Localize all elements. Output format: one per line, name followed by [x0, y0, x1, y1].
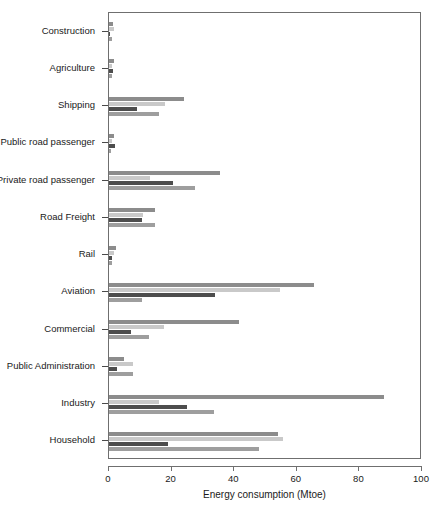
y-axis-label: Household	[50, 435, 95, 445]
bar-fill	[109, 223, 155, 227]
bar	[109, 139, 112, 143]
bar-fill	[109, 37, 112, 41]
bar-fill	[109, 447, 259, 451]
y-axis-label: Private road passenger	[0, 175, 95, 185]
bar-fill	[109, 293, 215, 297]
bar-fill	[109, 330, 131, 334]
bar	[109, 181, 173, 185]
x-axis-tick-label: 100	[413, 473, 429, 484]
bar	[109, 320, 239, 324]
bar	[109, 112, 159, 116]
bar-fill	[109, 320, 239, 324]
bar	[109, 405, 187, 409]
bar	[109, 144, 115, 148]
bar	[109, 330, 131, 334]
y-axis-label: Shipping	[58, 100, 95, 110]
y-axis-label: Road Freight	[40, 212, 95, 222]
bar	[109, 171, 220, 175]
bar	[109, 437, 283, 441]
x-axis-tick-label: 40	[228, 473, 239, 484]
bar-fill	[109, 261, 112, 265]
bar	[109, 218, 142, 222]
bar-fill	[109, 256, 112, 260]
bar	[109, 362, 133, 366]
y-axis-label: Aviation	[61, 286, 95, 296]
bar-fill	[109, 149, 111, 153]
x-axis-tick-label: 0	[105, 473, 110, 484]
bar-fill	[109, 69, 113, 73]
bar-fill	[109, 112, 159, 116]
bar	[109, 27, 114, 31]
bar	[109, 335, 149, 339]
y-axis-label: Industry	[61, 398, 95, 408]
bar-fill	[109, 102, 165, 106]
bar-fill	[109, 74, 112, 78]
bar-fill	[109, 22, 113, 26]
bar	[109, 298, 142, 302]
bar-fill	[109, 288, 280, 292]
y-axis-label: Public road passenger	[0, 137, 95, 147]
y-axis-label: Construction	[42, 26, 95, 36]
bar-fill	[109, 134, 114, 138]
x-axis-tick	[108, 466, 109, 471]
x-axis-tick	[233, 466, 234, 471]
bar	[109, 293, 215, 297]
bar	[109, 213, 143, 217]
x-axis-tick	[358, 466, 359, 471]
bar-fill	[109, 107, 137, 111]
bar	[109, 186, 195, 190]
bar	[109, 400, 159, 404]
bar	[109, 288, 280, 292]
bars-container	[109, 13, 420, 458]
bar-fill	[109, 405, 187, 409]
bar	[109, 134, 114, 138]
bar	[109, 251, 114, 255]
bar-fill	[109, 395, 384, 399]
bar	[109, 223, 155, 227]
bar-fill	[109, 298, 142, 302]
bar	[109, 325, 164, 329]
bar-fill	[109, 325, 164, 329]
bar	[109, 246, 116, 250]
x-axis-title: Energy consumption (Mtoe)	[108, 489, 421, 500]
bar	[109, 410, 214, 414]
bar	[109, 74, 112, 78]
bar	[109, 283, 314, 287]
bar-fill	[109, 144, 115, 148]
bar-fill	[109, 139, 112, 143]
bar-fill	[109, 251, 114, 255]
bar	[109, 102, 165, 106]
bar	[109, 357, 124, 361]
plot-area	[108, 12, 421, 459]
bar	[109, 367, 117, 371]
bar-fill	[109, 218, 142, 222]
bar-fill	[109, 181, 173, 185]
bar	[109, 69, 113, 73]
bar-fill	[109, 432, 278, 436]
bar-fill	[109, 442, 168, 446]
x-axis-tick-label: 60	[291, 473, 302, 484]
bar-fill	[109, 97, 184, 101]
bar	[109, 176, 150, 180]
bar	[109, 442, 168, 446]
bar-fill	[109, 27, 114, 31]
y-axis-labels: ConstructionAgricultureShippingPublic ro…	[0, 12, 103, 459]
bar	[109, 32, 110, 36]
bar-chart: ConstructionAgricultureShippingPublic ro…	[0, 0, 439, 510]
y-axis-label: Agriculture	[50, 63, 95, 73]
bar-fill	[109, 32, 110, 36]
bar-fill	[109, 400, 159, 404]
bar	[109, 59, 114, 63]
bar-fill	[109, 367, 117, 371]
bar	[109, 97, 184, 101]
bar-fill	[109, 171, 220, 175]
bar-fill	[109, 362, 133, 366]
bar-fill	[109, 186, 195, 190]
bar-fill	[109, 59, 114, 63]
x-axis-tick	[421, 466, 422, 471]
bar-fill	[109, 246, 116, 250]
bar-fill	[109, 213, 143, 217]
bar	[109, 107, 137, 111]
x-axis-tick	[296, 466, 297, 471]
bar	[109, 395, 384, 399]
